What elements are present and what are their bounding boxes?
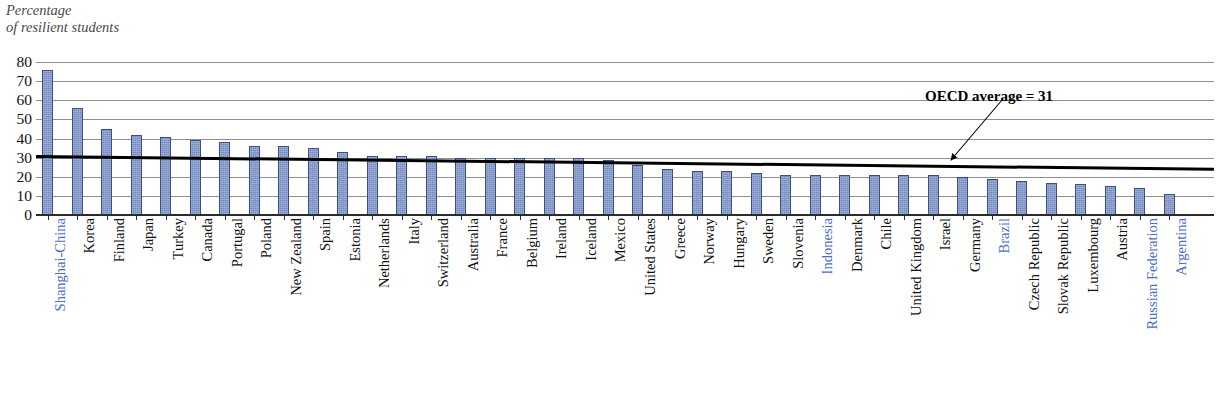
y-tick-70: 70	[17, 73, 33, 89]
x-label-israel: Israel	[938, 218, 953, 250]
bar	[898, 175, 909, 215]
x-label-united-states: United States	[643, 218, 658, 296]
x-label-austria: Austria	[1115, 218, 1130, 261]
bar	[485, 158, 496, 215]
x-label-italy: Italy	[407, 218, 422, 245]
x-label-australia: Australia	[466, 218, 481, 271]
bar	[1016, 181, 1027, 215]
y-axis-title: Percentage of resilient students	[6, 2, 119, 36]
bar	[632, 165, 643, 215]
x-label-turkey: Turkey	[171, 218, 186, 259]
bar	[1164, 194, 1175, 215]
bar	[131, 135, 142, 215]
x-label-iceland: Iceland	[584, 218, 599, 261]
bar	[721, 171, 732, 215]
bar	[839, 175, 850, 215]
y-tick-0: 0	[24, 207, 32, 223]
x-label-denmark: Denmark	[850, 218, 865, 272]
x-label-indonesia: Indonesia	[820, 218, 835, 274]
bar	[367, 156, 378, 215]
y-tick-20: 20	[17, 169, 33, 185]
x-label-argentina: Argentina	[1174, 218, 1189, 276]
x-label-belgium: Belgium	[525, 218, 540, 268]
bar	[1046, 183, 1057, 216]
bar	[810, 175, 821, 215]
x-axis-baseline	[36, 214, 1214, 216]
x-label-poland: Poland	[259, 218, 274, 258]
bar	[987, 179, 998, 215]
x-label-sweden: Sweden	[761, 218, 776, 264]
y-tick-50: 50	[17, 112, 33, 128]
y-tick-10: 10	[17, 188, 33, 204]
bar	[1134, 188, 1145, 215]
y-tick-30: 30	[17, 150, 33, 166]
resilient-students-bar-chart: Percentage of resilient students 0102030…	[0, 0, 1226, 393]
bar	[603, 160, 614, 215]
bar	[573, 158, 584, 215]
bar	[101, 129, 112, 215]
x-label-slovenia: Slovenia	[791, 218, 806, 269]
bar	[751, 173, 762, 215]
bar	[219, 142, 230, 215]
bar	[544, 158, 555, 215]
y-tick-80: 80	[17, 54, 33, 70]
bar	[455, 158, 466, 215]
bar	[426, 156, 437, 215]
x-label-mexico: Mexico	[613, 218, 628, 262]
x-label-shanghai-china: Shanghai-China	[53, 218, 68, 311]
x-label-united-kingdom: United Kingdom	[909, 218, 924, 316]
y-tick-40: 40	[17, 131, 33, 147]
plot-area	[36, 62, 1214, 215]
gridline-80	[36, 62, 1214, 63]
gridline-50	[36, 119, 1214, 120]
bar	[514, 158, 525, 215]
x-label-spain: Spain	[318, 218, 333, 251]
x-label-finland: Finland	[112, 218, 127, 262]
bar	[780, 175, 791, 215]
bar	[869, 175, 880, 215]
bar	[1105, 186, 1116, 215]
x-label-ireland: Ireland	[554, 218, 569, 259]
y-tick-60: 60	[17, 93, 33, 109]
oecd-average-label: OECD average = 31	[925, 88, 1053, 105]
x-label-slovak-republic: Slovak Republic	[1056, 218, 1071, 314]
bar	[957, 177, 968, 215]
x-label-brazil: Brazil	[997, 218, 1012, 253]
gridline-40	[36, 139, 1214, 140]
gridline-20	[36, 177, 1214, 178]
x-label-switzerland: Switzerland	[436, 218, 451, 287]
x-label-hungary: Hungary	[732, 218, 747, 269]
bar	[72, 108, 83, 215]
gridline-70	[36, 81, 1214, 82]
x-label-greece: Greece	[673, 218, 688, 259]
bar	[662, 169, 673, 215]
x-axis-category-labels: Shanghai-ChinaKoreaFinlandJapanTurkeyCan…	[36, 218, 1214, 393]
x-label-korea: Korea	[82, 218, 97, 253]
bar	[278, 146, 289, 215]
x-label-estonia: Estonia	[348, 218, 363, 262]
bar	[160, 137, 171, 215]
x-label-norway: Norway	[702, 218, 717, 265]
x-label-japan: Japan	[141, 218, 156, 251]
x-label-czech-republic: Czech Republic	[1027, 218, 1042, 310]
bar	[42, 70, 53, 215]
bar	[1075, 184, 1086, 215]
x-label-germany: Germany	[968, 218, 983, 272]
bar	[928, 175, 939, 215]
x-label-portugal: Portugal	[230, 218, 245, 267]
x-label-netherlands: Netherlands	[377, 218, 392, 288]
x-label-canada: Canada	[200, 218, 215, 261]
x-label-russian-federation: Russian Federation	[1145, 218, 1160, 330]
y-axis-tick-labels: 01020304050607080	[0, 62, 32, 215]
bar	[190, 140, 201, 215]
x-label-france: France	[495, 218, 510, 257]
bar	[396, 156, 407, 215]
bar	[692, 171, 703, 215]
x-label-new-zealand: New Zealand	[289, 218, 304, 296]
x-label-chile: Chile	[879, 218, 894, 249]
gridline-10	[36, 196, 1214, 197]
x-label-luxembourg: Luxembourg	[1086, 218, 1101, 293]
